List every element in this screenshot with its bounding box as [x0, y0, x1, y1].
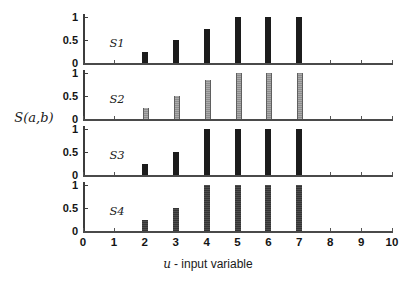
x-tick-mark: [330, 172, 331, 175]
x-axis-s2: [83, 119, 393, 121]
series-label-s3: S3: [95, 148, 139, 162]
x-tick-label: 10: [380, 235, 404, 249]
bar-s2-u2: [143, 108, 149, 120]
x-axis-s1: [83, 63, 393, 65]
series-label-s2: S2: [95, 92, 139, 106]
bar-s3-u2: [142, 164, 148, 176]
y-tick-mark: [85, 73, 88, 74]
x-tick-mark: [83, 116, 84, 119]
y-tick-label: 0.5: [50, 33, 78, 47]
y-axis-s1: [83, 14, 85, 63]
bar-s4-u4: [204, 185, 210, 231]
bar-s4-u6: [265, 185, 271, 231]
x-tick-mark: [114, 172, 115, 175]
x-tick-label: 9: [349, 235, 373, 249]
y-tick-label: 1: [50, 10, 78, 24]
x-tick-mark: [83, 228, 84, 231]
bar-s1-u2: [142, 52, 148, 64]
series-label-s4: S4: [95, 204, 139, 218]
bar-s1-u5: [235, 17, 241, 63]
y-tick-mark: [85, 208, 88, 209]
bar-s1-u6: [265, 17, 271, 63]
x-tick-mark: [361, 228, 362, 231]
x-axis-label-text: - input variable: [174, 257, 253, 271]
x-axis-label-variable: u: [163, 257, 171, 271]
x-tick-label: 7: [287, 235, 311, 249]
y-tick-mark: [85, 40, 88, 41]
x-tick-mark: [392, 116, 393, 119]
x-tick-mark: [83, 60, 84, 63]
y-tick-mark: [85, 17, 88, 18]
x-tick-mark: [392, 172, 393, 175]
y-tick-label: 0.5: [50, 89, 78, 103]
y-axis-s3: [83, 126, 85, 175]
x-tick-mark: [392, 60, 393, 63]
x-tick-label: 0: [71, 235, 95, 249]
y-tick-label: 1: [50, 122, 78, 136]
x-tick-mark: [361, 60, 362, 63]
x-tick-label: 2: [133, 235, 157, 249]
bar-s2-u4: [205, 80, 211, 119]
bar-s3-u3: [173, 152, 179, 175]
x-tick-label: 3: [164, 235, 188, 249]
bar-s1-u4: [204, 29, 210, 64]
x-axis-label: u- input variable: [0, 257, 416, 271]
x-tick-mark: [114, 228, 115, 231]
bar-s2-u3: [174, 96, 180, 119]
bar-s1-u3: [173, 40, 179, 63]
bar-s2-u5: [236, 73, 242, 119]
x-tick-mark: [330, 60, 331, 63]
y-tick-label: 0.5: [50, 201, 78, 215]
bar-s4-u3: [173, 208, 179, 231]
y-tick-mark: [85, 185, 88, 186]
bar-s4-u5: [235, 185, 241, 231]
x-tick-mark: [361, 116, 362, 119]
bar-s3-u6: [265, 129, 271, 175]
bar-s4-u2: [142, 220, 148, 232]
stem-plot-figure: S(a,b) 10.50S110.50S210.50S310.50S4 0123…: [0, 0, 416, 282]
x-tick-label: 6: [256, 235, 280, 249]
x-tick-mark: [361, 172, 362, 175]
y-tick-label: 1: [50, 178, 78, 192]
y-axis-s4: [83, 182, 85, 231]
bar-s3-u7: [296, 129, 302, 175]
x-tick-label: 1: [102, 235, 126, 249]
x-tick-mark: [330, 116, 331, 119]
x-tick-mark: [392, 228, 393, 231]
x-tick-mark: [330, 228, 331, 231]
x-tick-label: 5: [226, 235, 250, 249]
x-axis-s3: [83, 175, 393, 177]
bar-s3-u4: [204, 129, 210, 175]
bar-s3-u5: [235, 129, 241, 175]
y-tick-mark: [85, 129, 88, 130]
x-axis-s4: [83, 231, 393, 233]
y-tick-mark: [85, 152, 88, 153]
bar-s2-u7: [297, 73, 303, 119]
x-tick-mark: [83, 172, 84, 175]
y-tick-label: 1: [50, 66, 78, 80]
x-tick-label: 8: [318, 235, 342, 249]
x-tick-mark: [114, 60, 115, 63]
y-tick-mark: [85, 96, 88, 97]
series-label-s1: S1: [95, 36, 139, 50]
y-axis-s2: [83, 70, 85, 119]
y-tick-label: 0.5: [50, 145, 78, 159]
bar-s1-u7: [296, 17, 302, 63]
x-tick-label: 4: [195, 235, 219, 249]
x-tick-mark: [114, 116, 115, 119]
bar-s2-u6: [266, 73, 272, 119]
bar-s4-u7: [296, 185, 302, 231]
